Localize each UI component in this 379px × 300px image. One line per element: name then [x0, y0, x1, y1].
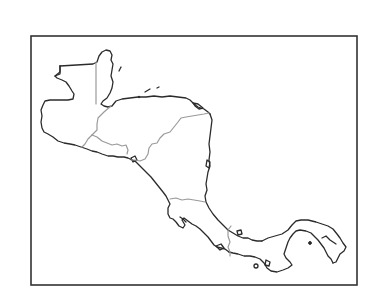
island-panama-south: [265, 260, 270, 266]
coastline-panama-south: [229, 230, 333, 272]
island-bay-islands-1: [145, 89, 150, 92]
island-bay-islands-3: [138, 96, 140, 98]
island-belize-cay: [119, 67, 121, 71]
coastline-caribbean-nicaragua: [205, 114, 262, 241]
island-gulf-fonseca: [131, 156, 137, 162]
island-panama-pearl: [309, 242, 312, 245]
central-america-map: [0, 0, 379, 300]
coastline-north-west: [60, 50, 210, 114]
costa-rica-osa-detail: [216, 244, 224, 250]
border-el-salvador-honduras: [92, 135, 128, 154]
island-coiba: [254, 264, 258, 268]
panama-bay-detail: [322, 236, 336, 244]
island-bocas: [237, 230, 242, 235]
border-guatemala-el-salvador: [82, 135, 92, 147]
coastline-pacific: [41, 66, 229, 252]
mosquito-coast-lagoon: [193, 103, 203, 109]
border-nicaragua-costa-rica: [170, 198, 205, 202]
nicaragua-coast-lagoon: [206, 160, 210, 168]
border-honduras-nicaragua: [131, 113, 209, 161]
map-frame: [31, 36, 357, 285]
border-guatemala-honduras: [92, 106, 111, 135]
island-bay-islands-2: [157, 87, 159, 88]
